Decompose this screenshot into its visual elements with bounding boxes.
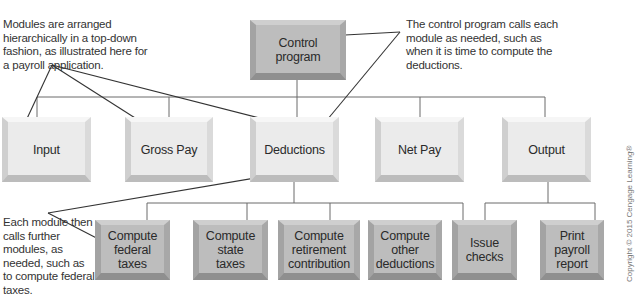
module-compute-other-deductions: Compute other deductions xyxy=(368,220,442,280)
module-label: Compute state taxes xyxy=(206,229,256,271)
annotation-top-right: The control program calls each module as… xyxy=(406,18,566,72)
module-label: Compute federal taxes xyxy=(105,229,160,271)
copyright-notice: Copyright © 2015 Cengage Learning® xyxy=(625,146,634,282)
module-net-pay: Net Pay xyxy=(375,117,464,182)
module-label: Print payroll report xyxy=(550,229,595,271)
module-input: Input xyxy=(2,117,91,182)
module-compute-retirement-contribution: Compute retirement contribution xyxy=(278,220,360,280)
module-compute-federal-taxes: Compute federal taxes xyxy=(95,220,170,280)
module-issue-checks: Issue checks xyxy=(452,220,517,280)
annotation-top-left: Modules are arranged hierarchically in a… xyxy=(3,18,153,72)
module-label: Gross Pay xyxy=(141,143,198,157)
module-label: Deductions xyxy=(264,143,325,157)
module-label: Issue checks xyxy=(462,236,507,264)
module-output: Output xyxy=(502,117,591,182)
module-label: Compute other deductions xyxy=(372,229,438,271)
module-control-program: Control program xyxy=(250,20,346,80)
module-label: Control program xyxy=(268,36,328,64)
module-deductions: Deductions xyxy=(250,117,339,182)
annotation-bottom-left: Each module then calls further modules, … xyxy=(3,216,95,297)
module-compute-state-taxes: Compute state taxes xyxy=(193,220,268,280)
module-label: Net Pay xyxy=(398,143,441,157)
module-label: Output xyxy=(528,143,564,157)
module-gross-pay: Gross Pay xyxy=(125,117,213,182)
module-label: Input xyxy=(33,143,60,157)
module-label: Compute retirement contribution xyxy=(284,229,354,271)
module-print-payroll-report: Print payroll report xyxy=(540,220,604,280)
